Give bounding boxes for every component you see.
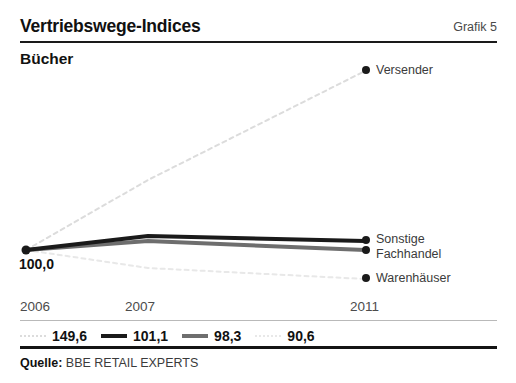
- footer-divider: [20, 346, 497, 349]
- legend-item-versender: 149,6: [20, 328, 87, 344]
- legend-item-warenhaeuser: 90,6: [255, 328, 314, 344]
- series-line-versender: [26, 71, 365, 250]
- legend-item-sonstige: 101,1: [101, 328, 168, 344]
- legend-value-versender: 149,6: [52, 328, 87, 344]
- chart-legend: 149,6 101,1 98,3 90,6: [20, 326, 329, 346]
- marker-versender-end: [362, 66, 370, 74]
- series-label-fachhandel: Fachhandel: [376, 247, 441, 261]
- legend-value-sonstige: 101,1: [133, 328, 168, 344]
- legend-swatch-sonstige: [101, 334, 127, 338]
- marker-warenhaeuser-end: [362, 274, 370, 282]
- source-line: Quelle: BBE RETAIL EXPERTS: [20, 356, 198, 370]
- legend-value-warenhaeuser: 90,6: [287, 328, 314, 344]
- legend-top-divider: [20, 320, 497, 321]
- legend-value-fachhandel: 98,3: [214, 328, 241, 344]
- series-label-versender: Versender: [376, 63, 433, 77]
- series-label-sonstige: Sonstige: [376, 232, 425, 246]
- chart-card: Vertriebswege-Indices Grafik 5 Bücher Ve…: [0, 0, 516, 383]
- x-tick-2006: 2006: [20, 299, 50, 314]
- marker-sonstige-end: [362, 236, 370, 244]
- marker-origin-2006: [22, 246, 31, 255]
- x-tick-2011: 2011: [350, 299, 379, 314]
- legend-swatch-fachhandel: [182, 334, 208, 338]
- x-tick-2007: 2007: [125, 299, 155, 314]
- marker-fachhandel-end: [362, 246, 370, 254]
- legend-item-fachhandel: 98,3: [182, 328, 241, 344]
- source-label: Quelle:: [20, 356, 66, 370]
- source-value: BBE RETAIL EXPERTS: [66, 356, 198, 370]
- legend-swatch-warenhaeuser: [255, 335, 281, 337]
- series-line-warenhaeuser: [26, 250, 365, 279]
- base-index-annotation: 100,0: [19, 256, 54, 272]
- x-axis: 2006 2007 2011: [0, 299, 516, 319]
- legend-swatch-versender: [20, 335, 46, 337]
- series-label-warenhaeuser: Warenhäuser: [376, 271, 451, 285]
